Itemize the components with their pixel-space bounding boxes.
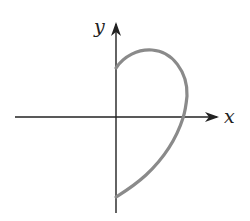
x-axis-label: x: [224, 105, 235, 127]
parametric-curve: [116, 50, 187, 197]
y-axis-label: y: [93, 15, 105, 37]
curve-diagram: y x: [0, 0, 250, 221]
